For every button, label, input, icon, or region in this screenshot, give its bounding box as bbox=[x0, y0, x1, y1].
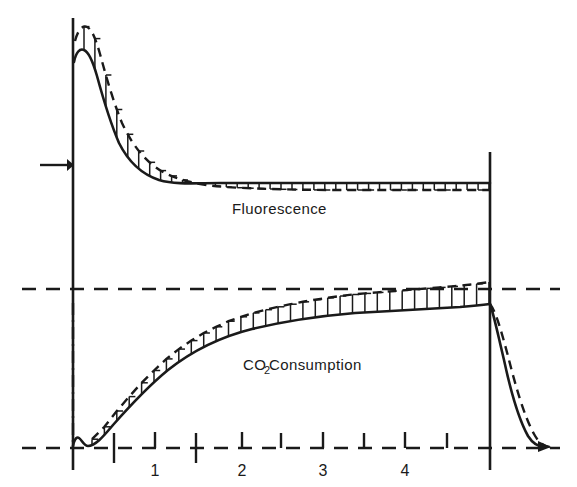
x-axis-ticks bbox=[114, 432, 447, 463]
x-axis-tick-labels: 1 2 3 4 bbox=[151, 462, 410, 479]
co2-label-rest: Consumption bbox=[269, 356, 362, 373]
figure-canvas: 1 2 3 4 Fluorescence CO 2 Consumption bbox=[0, 0, 577, 487]
co2-label-main: CO bbox=[243, 356, 266, 373]
figure-container: 1 2 3 4 Fluorescence CO 2 Consumption bbox=[0, 0, 577, 487]
co2-solid-curve bbox=[73, 304, 545, 447]
co2-dashed-curve bbox=[490, 304, 550, 447]
x-tick-label-2: 2 bbox=[238, 462, 247, 479]
axis-group bbox=[22, 18, 560, 470]
co2-decay-arrowhead-icon bbox=[538, 441, 551, 452]
onset-arrow bbox=[40, 159, 74, 171]
fluorescence-dashed-curve bbox=[75, 27, 490, 190]
fluorescence-solid-curve bbox=[74, 50, 490, 184]
x-tick-label-3: 3 bbox=[319, 462, 328, 479]
x-tick-label-1: 1 bbox=[151, 462, 160, 479]
fluorescence-hatch-band bbox=[84, 27, 489, 190]
co2-consumption-label: CO 2 Consumption bbox=[243, 356, 362, 376]
x-tick-label-4: 4 bbox=[401, 462, 410, 479]
fluorescence-label: Fluorescence bbox=[232, 200, 327, 217]
